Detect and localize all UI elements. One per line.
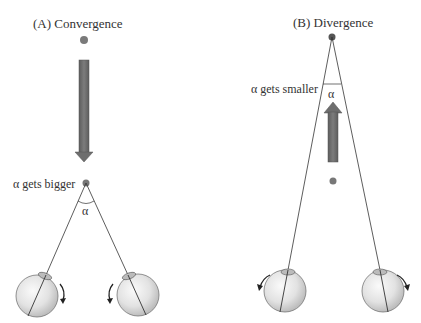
rotation-arrow-icon	[109, 284, 113, 300]
alpha-symbol: α	[328, 87, 335, 101]
left-sightline	[288, 37, 332, 270]
rotation-arrowhead	[404, 284, 410, 291]
angle-bigger-label: α gets bigger	[13, 177, 75, 191]
rotation-arrowhead	[107, 298, 113, 304]
angle-smaller-label: α gets smaller	[251, 82, 318, 96]
alpha-symbol: α	[82, 204, 89, 218]
right-sightline	[86, 183, 128, 275]
panel-b-title: (B) Divergence	[293, 15, 373, 30]
left-eye	[16, 271, 58, 317]
near-target-dot	[330, 178, 337, 185]
right-eye	[117, 271, 159, 316]
rotation-arrow-icon	[60, 284, 64, 300]
panel-a-title: (A) Convergence	[33, 16, 123, 31]
rotation-arrowhead	[60, 298, 66, 304]
right-sightline	[332, 37, 380, 270]
rotation-arrowhead	[257, 284, 263, 291]
panel-divergence: (B) Divergence α α gets smaller	[251, 15, 410, 312]
down-arrow-icon	[75, 60, 93, 162]
left-eye	[264, 269, 306, 312]
vergence-diagram: (A) Convergence α gets bigger α	[0, 0, 421, 323]
panel-convergence: (A) Convergence α gets bigger α	[13, 16, 159, 317]
far-target-dot	[80, 36, 88, 44]
up-arrow-icon	[324, 102, 342, 162]
left-sightline	[46, 183, 86, 275]
